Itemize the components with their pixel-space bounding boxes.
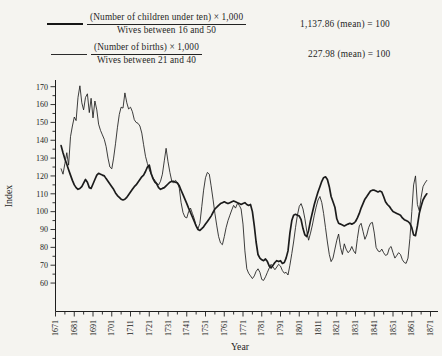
x-axis-tick-label: 1861 xyxy=(407,320,416,336)
x-axis-tick-label: 1831 xyxy=(351,320,360,336)
x-axis-tick-label: 1841 xyxy=(370,320,379,336)
x-axis-tick-label: 1681 xyxy=(70,320,79,336)
x-axis-title: Year xyxy=(231,341,250,352)
y-axis-tick-label: 170 xyxy=(36,83,48,92)
x-axis-tick-label: 1751 xyxy=(201,320,210,336)
x-axis-tick-label: 1801 xyxy=(295,320,304,336)
y-axis-tick-label: 160 xyxy=(36,100,48,109)
x-axis-tick-label: 1791 xyxy=(276,320,285,336)
x-axis-tick-label: 1761 xyxy=(220,320,229,336)
y-axis-tick-label: 140 xyxy=(36,136,48,145)
x-axis-tick-label: 1871 xyxy=(426,320,435,336)
y-axis-tick-label: 110 xyxy=(36,190,48,199)
x-axis-tick-label: 1711 xyxy=(126,320,135,336)
x-axis-tick-label: 1781 xyxy=(257,320,266,336)
y-axis-tick-label: 80 xyxy=(40,243,48,252)
y-axis-tick-label: 150 xyxy=(36,118,48,127)
y-axis-tick-label: 100 xyxy=(36,207,48,216)
x-axis-tick-label: 1821 xyxy=(332,320,341,336)
scanned-chart-page: (Number of children under ten) × 1,000 W… xyxy=(0,0,442,356)
x-axis-tick-label: 1691 xyxy=(89,320,98,336)
axis-lines xyxy=(56,80,439,312)
y-axis-tick-label: 120 xyxy=(36,172,48,181)
y-axis-tick-label: 70 xyxy=(40,261,48,270)
y-axis-title: Index xyxy=(3,185,14,207)
y-axis-tick-label: 90 xyxy=(40,225,48,234)
y-axis-tick-label: 60 xyxy=(40,279,48,288)
chart-canvas: 6070809010011012013014015016017016711681… xyxy=(0,0,442,356)
x-axis-tick-label: 1671 xyxy=(51,320,60,336)
x-axis-tick-label: 1741 xyxy=(182,320,191,336)
series-line-children-under-ten-per-1000-wives-16-50 xyxy=(61,146,427,268)
x-axis-tick-label: 1731 xyxy=(164,320,173,336)
series-line-births-per-1000-wives-21-40 xyxy=(61,86,427,281)
x-axis-tick-label: 1851 xyxy=(389,320,398,336)
x-axis-tick-label: 1721 xyxy=(145,320,154,336)
x-axis-tick-label: 1701 xyxy=(107,320,116,336)
y-axis-tick-label: 130 xyxy=(36,154,48,163)
x-axis-tick-label: 1811 xyxy=(314,320,323,336)
x-axis-tick-label: 1771 xyxy=(239,320,248,336)
